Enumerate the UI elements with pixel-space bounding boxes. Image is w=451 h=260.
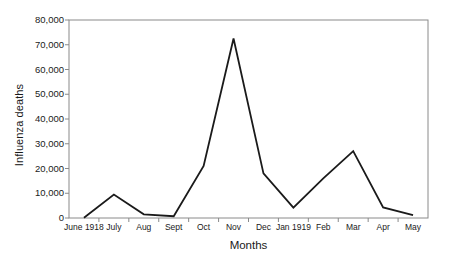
x-axis-title: Months <box>69 238 428 252</box>
x-axis-tick-label: Aug <box>136 221 151 233</box>
x-axis-tick-label: Dec <box>256 221 271 233</box>
x-axis-tick-label: Jan 1919 <box>276 221 311 233</box>
x-axis-tick-label: Apr <box>377 221 390 233</box>
x-axis-tick-labels: June 1918JulyAugSeptOctNovDecJan 1919Feb… <box>69 221 428 235</box>
x-axis-tick-label: Nov <box>226 221 241 233</box>
x-axis-tick-label: Oct <box>197 221 210 233</box>
x-axis-tick-label: June 1918 <box>64 221 104 233</box>
x-axis-tick-label: May <box>405 221 421 233</box>
x-axis-tick-label: Mar <box>346 221 361 233</box>
data-line-influenza-deaths <box>84 39 413 218</box>
x-axis-tick-label: Sept <box>165 221 183 233</box>
y-axis-ticks <box>65 20 69 218</box>
x-axis-tick-label: Feb <box>316 221 331 233</box>
plot-border <box>69 20 428 218</box>
chart-figure: Influenza deaths 010,00020,00030,00040,0… <box>0 0 451 260</box>
plot-frame <box>69 20 428 218</box>
x-axis-tick-label: July <box>106 221 121 233</box>
